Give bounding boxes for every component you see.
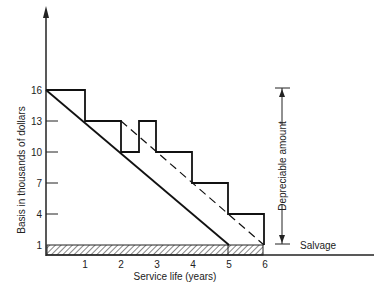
svg-text:10: 10 (31, 147, 43, 158)
svg-text:4: 4 (36, 209, 42, 220)
salvage-label: Salvage (300, 240, 337, 251)
svg-text:13: 13 (31, 116, 43, 127)
stepped-basis-line (46, 90, 264, 245)
salvage-band (47, 245, 263, 255)
arrow-down-icon (279, 235, 285, 243)
svg-text:1: 1 (36, 240, 42, 251)
svg-text:3: 3 (154, 259, 160, 270)
y-axis-title: Basis in thousands of dollars (16, 106, 27, 233)
svg-text:4: 4 (190, 259, 196, 270)
svg-text:2: 2 (118, 259, 124, 270)
svg-text:1: 1 (82, 259, 88, 270)
depreciable-amount-label: Depreciable amount (277, 121, 288, 211)
svg-text:16: 16 (31, 85, 43, 96)
y-tick-labels: 16 13 10 7 4 1 (31, 85, 43, 251)
y-axis-arrow-icon (43, 6, 49, 18)
y-ticks (46, 121, 58, 214)
depreciation-chart: 16 13 10 7 4 1 1 2 3 4 5 6 Service life … (0, 0, 374, 299)
x-axis-title: Service life (years) (134, 271, 217, 282)
svg-text:5: 5 (226, 259, 232, 270)
svg-text:7: 7 (36, 178, 42, 189)
arrow-up-icon (279, 89, 285, 97)
solid-depreciation-line (46, 90, 229, 245)
svg-text:6: 6 (262, 259, 268, 270)
x-tick-labels: 1 2 3 4 5 6 (82, 259, 268, 270)
